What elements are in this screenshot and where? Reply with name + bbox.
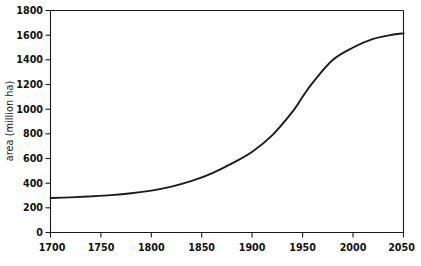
x-axis-tick-labels: 1700 1750 1800 1850 1900 1950 2000 2050 — [39, 242, 416, 253]
x-tick-label-1750: 1750 — [88, 242, 115, 253]
y-axis-ticks — [46, 11, 51, 233]
y-tick-label-400: 400 — [23, 178, 43, 189]
y-tick-label-800: 800 — [23, 128, 43, 139]
line-chart: 0 200 400 600 800 1000 1200 1400 1600 18… — [0, 0, 421, 266]
x-tick-label-1900: 1900 — [239, 242, 266, 253]
y-tick-label-1800: 1800 — [16, 5, 43, 16]
y-tick-label-0: 0 — [36, 227, 43, 238]
y-tick-label-1000: 1000 — [16, 104, 43, 115]
x-tick-label-2050: 2050 — [388, 242, 415, 253]
y-tick-label-1600: 1600 — [16, 30, 43, 41]
y-tick-label-1200: 1200 — [16, 79, 43, 90]
x-tick-label-1950: 1950 — [289, 242, 316, 253]
plot-frame — [51, 11, 404, 233]
y-tick-label-1400: 1400 — [16, 54, 43, 65]
x-tick-label-1850: 1850 — [188, 242, 215, 253]
x-tick-label-1700: 1700 — [39, 242, 66, 253]
x-axis-ticks — [51, 233, 404, 238]
y-tick-label-600: 600 — [23, 153, 43, 164]
chart-container: 0 200 400 600 800 1000 1200 1400 1600 18… — [0, 0, 421, 266]
series-line-cropland-area — [51, 33, 404, 198]
x-tick-label-2000: 2000 — [340, 242, 367, 253]
x-tick-label-1800: 1800 — [138, 242, 165, 253]
y-axis-title: area (million ha) — [4, 81, 15, 162]
y-axis-tick-labels: 0 200 400 600 800 1000 1200 1400 1600 18… — [16, 5, 43, 238]
y-tick-label-200: 200 — [23, 202, 43, 213]
